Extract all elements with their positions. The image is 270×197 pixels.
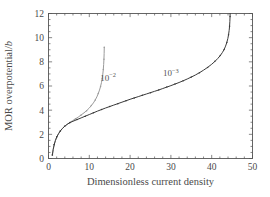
chart-figure: 01020304050024681012 10−210−3 Dimensionl… [0,0,270,197]
series-marker [103,69,105,71]
series-marker [125,100,127,102]
x-axis-title: Dimensionless current density [87,176,215,187]
series-marker [191,76,193,78]
y-axis-title-main: MOR overpotential/ [3,46,14,131]
y-tick-label: 2 [39,130,44,140]
series-marker [223,49,225,51]
series-marker [60,130,62,132]
series-marker [228,34,230,36]
series-marker [174,83,176,85]
series-marker [150,92,152,94]
series-marker [229,16,231,18]
series-marker [109,106,111,108]
series-marker [142,95,144,97]
x-tick-label: 20 [125,162,135,172]
x-tick-label: 0 [46,162,51,172]
series-marker [220,55,222,57]
y-tick-label: 6 [39,81,44,91]
chart-canvas: 01020304050024681012 10−210−3 Dimensionl… [0,0,270,197]
y-tick-label: 12 [35,9,45,19]
x-tick-label: 10 [85,162,95,172]
y-tick-label: 0 [39,154,44,164]
series-marker [84,115,86,117]
series-marker [64,126,66,128]
series-marker [93,112,95,114]
series-marker [76,119,78,121]
series-marker [75,118,77,120]
series-marker [117,103,119,105]
y-axis-title-symbol: b [3,41,14,46]
series-marker [53,144,55,146]
y-tick-label: 10 [35,33,45,43]
series-marker [226,42,228,44]
annotation-exponent: −3 [172,67,179,74]
y-tick-label: 4 [39,106,44,116]
x-tick-label: 50 [248,162,258,172]
series-marker [199,72,201,74]
y-tick-label: 8 [39,57,44,67]
series-marker [103,58,105,60]
series-marker [182,80,184,82]
series-marker [101,109,103,111]
series-marker [166,86,168,88]
series-marker [104,47,106,49]
series-marker [98,93,100,95]
x-tick-label: 40 [207,162,217,172]
series-marker [214,61,216,63]
series-marker [94,99,96,101]
x-tick-label: 30 [166,162,176,172]
series-marker [86,110,88,112]
annotation-exponent: −2 [109,71,116,78]
series-marker [207,67,209,69]
series-marker [69,122,71,124]
series-marker [133,97,135,99]
series-marker [52,154,54,156]
series-marker [100,86,102,88]
series-marker [158,89,160,91]
series-marker [91,105,93,107]
series-marker [56,136,58,138]
series-marker [229,25,231,27]
series-marker [80,114,82,116]
y-axis-title: MOR overpotential/b [3,41,14,131]
